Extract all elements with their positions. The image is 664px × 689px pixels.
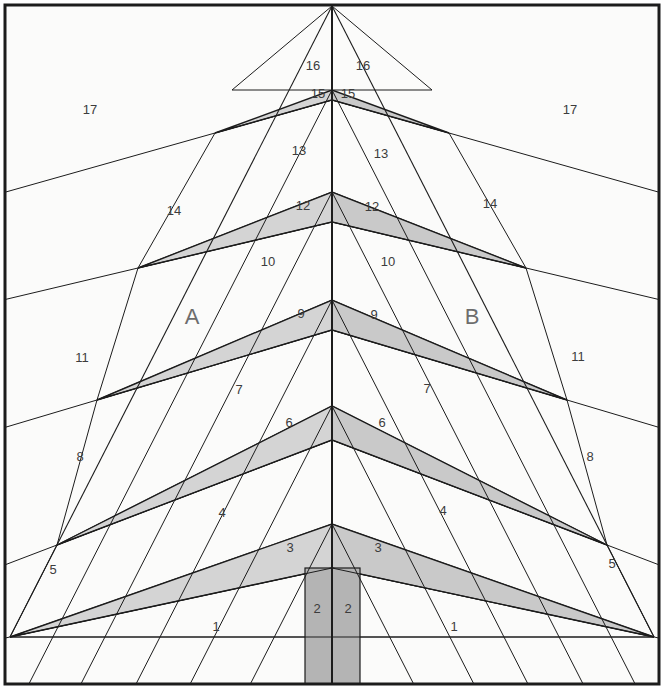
right-column bbox=[332, 568, 360, 684]
gable-diagram-svg: 1616151517171313121214141010991111776688… bbox=[0, 0, 664, 689]
left-column bbox=[305, 568, 332, 684]
diagram-canvas: 1616151517171313121214141010991111776688… bbox=[0, 0, 664, 689]
